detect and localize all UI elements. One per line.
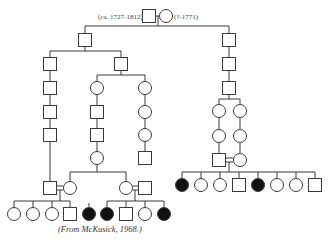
male-square xyxy=(143,10,156,23)
female-circle xyxy=(8,208,21,221)
affected-female-circle xyxy=(252,179,265,192)
founder-male-dates: (ca. 1727-1812) xyxy=(98,13,143,21)
female-circle xyxy=(213,105,226,118)
female-circle xyxy=(160,10,173,23)
female-circle xyxy=(139,82,152,95)
male-square xyxy=(120,208,133,221)
affected-female-circle xyxy=(158,208,171,221)
female-circle xyxy=(64,182,77,195)
male-square xyxy=(44,129,57,142)
female-circle xyxy=(120,182,133,195)
pedigree-individuals xyxy=(8,10,322,221)
male-square xyxy=(223,34,236,47)
female-circle xyxy=(139,129,152,142)
female-circle xyxy=(234,105,247,118)
male-square xyxy=(64,208,77,221)
source-caption: (From McKusick, 1968.) xyxy=(58,224,142,234)
female-circle xyxy=(195,179,208,192)
female-circle xyxy=(234,154,247,167)
pedigree-chart: (ca. 1727-1812) (?-1771) xyxy=(0,0,331,242)
male-square xyxy=(44,82,57,95)
male-square xyxy=(139,182,152,195)
male-square xyxy=(79,34,92,47)
male-square xyxy=(223,58,236,71)
male-square xyxy=(44,58,57,71)
founder-female-dates: (?-1771) xyxy=(174,13,199,21)
female-circle xyxy=(214,179,227,192)
male-square xyxy=(44,106,57,119)
female-circle xyxy=(290,179,303,192)
male-square xyxy=(223,82,236,95)
affected-female-circle xyxy=(101,208,114,221)
female-circle xyxy=(234,130,247,143)
male-square xyxy=(213,154,226,167)
female-circle xyxy=(27,208,40,221)
male-square xyxy=(115,58,128,71)
female-circle xyxy=(46,208,59,221)
female-circle xyxy=(139,106,152,119)
female-circle xyxy=(271,179,284,192)
male-square xyxy=(44,182,57,195)
male-square xyxy=(91,129,104,142)
male-square xyxy=(309,179,322,192)
male-square xyxy=(91,106,104,119)
male-square xyxy=(139,152,152,165)
female-circle xyxy=(213,130,226,143)
female-circle xyxy=(91,82,104,95)
female-circle xyxy=(91,152,104,165)
pedigree-lines xyxy=(14,16,315,207)
affected-female-circle xyxy=(176,179,189,192)
female-circle xyxy=(139,208,152,221)
male-square xyxy=(233,179,246,192)
affected-female-circle xyxy=(83,208,96,221)
